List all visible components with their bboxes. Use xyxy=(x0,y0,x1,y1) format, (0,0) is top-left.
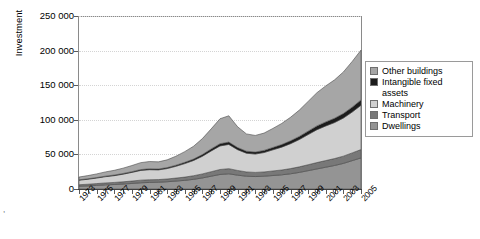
x-tick-label: 1999 xyxy=(306,183,326,203)
x-tick-label: 1981 xyxy=(148,183,168,203)
legend-item-label: Intangible fixed xyxy=(382,77,443,87)
x-tick-label: 1975 xyxy=(95,183,115,203)
chart-legend: Other buildingsIntangible fixedassetsMac… xyxy=(365,61,473,137)
x-tick-label: 1989 xyxy=(218,183,238,203)
x-tick-label: 1973 xyxy=(77,183,97,203)
x-tick-label: 1977 xyxy=(112,183,132,203)
legend-item-other-buildings[interactable]: Other buildings xyxy=(370,66,469,76)
legend-item-label-wrap: assets xyxy=(370,88,469,98)
legend-item-label: Transport xyxy=(382,110,420,120)
x-tick-label: 1993 xyxy=(253,183,273,203)
x-tick-label: 2001 xyxy=(324,183,344,203)
x-tick-label: 1997 xyxy=(289,183,309,203)
legend-swatch-icon xyxy=(370,122,378,130)
legend-item-machinery[interactable]: Machinery xyxy=(370,99,469,109)
x-tick-label: 1987 xyxy=(200,183,220,203)
legend-item-transport[interactable]: Transport xyxy=(370,110,469,120)
x-tick-label: 1985 xyxy=(183,183,203,203)
x-tick-label: 1979 xyxy=(130,183,150,203)
legend-item-label: Machinery xyxy=(382,99,424,109)
legend-item-dwellings[interactable]: Dwellings xyxy=(370,121,469,131)
legend-swatch-icon xyxy=(370,67,378,75)
x-tick-label: 1983 xyxy=(165,183,185,203)
legend-item-intangible-fixed[interactable]: Intangible fixed xyxy=(370,77,469,87)
legend-swatch-icon xyxy=(370,100,378,108)
x-tick-label: 2005 xyxy=(359,183,379,203)
chart-root: Investment 050 000100 000150 000200 0002… xyxy=(0,0,480,239)
x-tick-label: 1991 xyxy=(236,183,256,203)
legend-swatch-icon xyxy=(370,111,378,119)
x-tick-label: 1995 xyxy=(271,183,291,203)
legend-swatch-icon xyxy=(370,78,378,86)
x-tick-label: 2003 xyxy=(341,183,361,203)
legend-item-label: Other buildings xyxy=(382,66,443,76)
legend-item-label: Dwellings xyxy=(382,121,421,131)
page-artifact-text: , xyxy=(3,205,5,214)
